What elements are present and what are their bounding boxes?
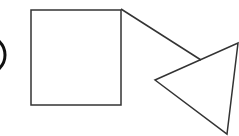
partial-circle-shape: [0, 36, 5, 74]
connector-line: [121, 9, 201, 60]
square-shape: [31, 10, 121, 105]
diagram-canvas: [0, 0, 239, 136]
